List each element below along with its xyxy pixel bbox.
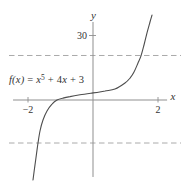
plot-svg: −2230xy bbox=[0, 0, 186, 184]
axis-tick-labels: −2230xy bbox=[23, 9, 176, 115]
function-label-exponent: 5 bbox=[41, 73, 45, 82]
function-label-mid: + 4 bbox=[45, 74, 62, 85]
x-axis-label: x bbox=[170, 90, 176, 102]
y-axis-label: y bbox=[90, 9, 96, 21]
function-label-eq: = bbox=[24, 74, 36, 85]
guide-lines bbox=[9, 55, 181, 143]
x-tick-label: −2 bbox=[23, 104, 34, 115]
function-plot-figure: −2230xy f(x) = x5 + 4x + 3 bbox=[0, 0, 186, 184]
x-tick-label: 2 bbox=[156, 104, 161, 115]
function-label: f(x) = x5 + 4x + 3 bbox=[9, 74, 84, 85]
function-label-fx: f(x) bbox=[9, 74, 24, 85]
y-tick-label: 30 bbox=[77, 30, 87, 41]
function-label-end: + 3 bbox=[67, 74, 84, 85]
